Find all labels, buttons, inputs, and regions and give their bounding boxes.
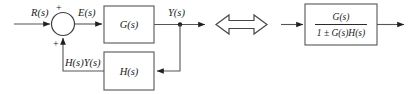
forward-block-label: G(s) [120,19,139,31]
equivalence-double-arrow-icon [216,15,267,34]
feedback-signal-label: H(s)Y(s) [64,57,101,69]
numerator-label: G(s) [333,12,350,23]
error-label: E(s) [77,7,96,19]
summing-feedback-sign: + [53,38,59,49]
summing-junction [52,13,75,36]
input-label: R(s) [30,7,49,19]
output-label: Y(s) [168,7,185,19]
denominator-label: 1 ± G(s)H(s) [317,28,365,39]
diagram-canvas: R(s) + + E(s) G(s) Y(s) H(s)Y(s) H(s) G(… [0,0,414,94]
feedback-wire-right [157,25,180,72]
summing-input-sign: + [56,2,62,13]
reduced-block [305,4,377,45]
feedback-block-label: H(s) [119,66,139,78]
block-diagram-figure: R(s) + + E(s) G(s) Y(s) H(s)Y(s) H(s) G(… [0,0,414,94]
